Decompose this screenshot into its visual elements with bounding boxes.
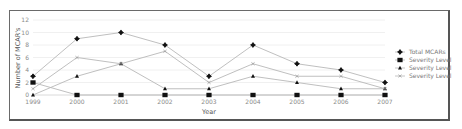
line-chart: 024681012 199920002001200220032004200520… [0, 0, 462, 129]
y-tick-label: 12 [21, 16, 29, 23]
square-marker-icon [338, 93, 343, 97]
legend-label: Severity Level [409, 72, 452, 80]
diamond-marker-icon [294, 61, 299, 66]
triangle-marker-icon [251, 74, 255, 78]
square-marker-icon [206, 93, 211, 97]
square-marker-icon [294, 93, 299, 97]
square-marker-icon [118, 93, 123, 97]
y-axis-label: Number of MCAR's [14, 27, 22, 88]
x-axis-label: Year [201, 108, 216, 116]
y-tick-label: 10 [21, 29, 29, 36]
y-tick-label: 0 [25, 91, 29, 98]
diamond-marker-icon [397, 49, 402, 54]
square-marker-icon [30, 80, 35, 84]
x-tick-label: 1999 [25, 98, 40, 105]
square-marker-icon [382, 93, 387, 97]
y-axis-ticks: 024681012 [21, 16, 29, 98]
legend-label: Severity Level [409, 56, 452, 64]
y-tick-label: 4 [25, 66, 29, 73]
x-tick-label: 2003 [201, 98, 216, 105]
x-tick-label: 2004 [245, 98, 260, 105]
series-markers [30, 30, 387, 97]
y-tick-label: 6 [25, 54, 29, 61]
square-marker-icon [74, 93, 79, 97]
y-tick-label: 2 [25, 79, 29, 86]
diamond-marker-icon [382, 80, 387, 85]
x-marker-icon [31, 87, 34, 90]
gridlines [33, 20, 385, 95]
x-tick-label: 2005 [289, 98, 304, 105]
series-lines [33, 33, 385, 96]
x-axis-ticks: 199920002001200220032004200520062007 [25, 98, 392, 105]
diamond-marker-icon [338, 67, 343, 72]
x-tick-label: 2007 [377, 98, 392, 105]
x-tick-label: 2001 [113, 98, 128, 105]
x-tick-label: 2000 [69, 98, 84, 105]
x-tick-label: 2006 [333, 98, 348, 105]
square-marker-icon [397, 58, 402, 62]
y-tick-label: 8 [25, 41, 29, 48]
square-marker-icon [162, 93, 167, 97]
legend-label: Total MCARs [408, 48, 446, 55]
diamond-marker-icon [118, 30, 123, 35]
legend: Total MCARsSeverity LevelSeverity LevelS… [395, 48, 452, 80]
legend-label: Severity Level [409, 64, 452, 72]
square-marker-icon [250, 93, 255, 97]
x-tick-label: 2002 [157, 98, 172, 105]
